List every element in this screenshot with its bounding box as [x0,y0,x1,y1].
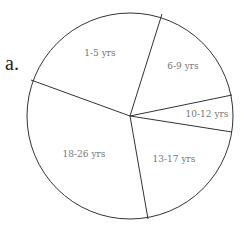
slice-label-18-26: 18-26 yrs [63,149,106,159]
pie-chart: 1-5 yrs 6-9 yrs 10-12 yrs 13-17 yrs 18-2… [0,0,241,226]
slice-label-10-12: 10-12 yrs [186,109,229,119]
slice-label-6-9: 6-9 yrs [167,61,199,71]
slice-label-13-17: 13-17 yrs [153,154,196,164]
slice-label-1-5: 1-5 yrs [84,48,116,58]
